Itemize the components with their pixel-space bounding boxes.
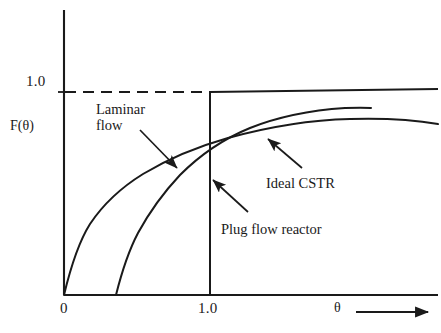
ideal-cstr-leader-arrow bbox=[268, 139, 302, 168]
residence-time-distribution-figure: 1.0 F(θ) 0 1.0 θ Laminar flow Ideal CSTR… bbox=[0, 0, 441, 333]
laminar-flow-curve bbox=[116, 108, 371, 295]
ideal-cstr-curve bbox=[64, 119, 438, 295]
annotation-ideal-cstr: Ideal CSTR bbox=[266, 175, 335, 191]
laminar-flow-leader-arrow bbox=[140, 130, 177, 168]
plot-canvas bbox=[0, 0, 441, 333]
plug-flow-reactor-leader-arrow bbox=[213, 180, 248, 212]
y-axis-title: F(θ) bbox=[10, 118, 34, 134]
annotation-laminar-flow: Laminar flow bbox=[96, 101, 145, 133]
x-axis-tick-label-one: 1.0 bbox=[198, 300, 218, 317]
annotation-plug-flow-reactor: Plug flow reactor bbox=[221, 221, 322, 237]
y-axis-tick-label-one: 1.0 bbox=[26, 73, 46, 90]
x-axis-title: θ bbox=[334, 300, 341, 316]
x-axis-tick-label-zero: 0 bbox=[60, 300, 68, 317]
plug-flow-reactor-curve bbox=[210, 89, 438, 92]
